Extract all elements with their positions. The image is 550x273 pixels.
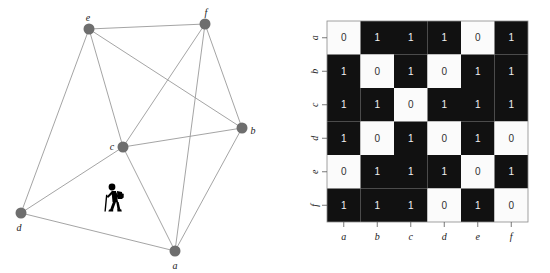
matrix-row-label-f: f: [309, 203, 320, 207]
matrix-cell-value-a-e: 0: [475, 32, 481, 43]
graph-edge-a-c: [123, 147, 175, 251]
adjacency-matrix-panel: 011101101011110111101010011101111010 abc…: [300, 0, 550, 273]
matrix-cell-value-c-d: 1: [441, 99, 447, 110]
hiker-icon-shape: [104, 184, 123, 212]
matrix-cell-value-b-e: 1: [475, 66, 481, 77]
matrix-col-label-a: a: [341, 231, 346, 242]
matrix-cell-value-c-b: 1: [374, 99, 380, 110]
matrix-row-label-a: a: [309, 35, 320, 40]
matrix-cell-value-a-d: 1: [441, 32, 447, 43]
matrix-cell-value-a-c: 1: [408, 32, 414, 43]
matrix-col-label-c: c: [409, 231, 414, 242]
matrix-cell-value-f-a: 1: [341, 200, 347, 211]
matrix-cell-value-c-c: 0: [408, 99, 414, 110]
matrix-cell-value-b-b: 0: [374, 66, 380, 77]
matrix-cell-value-a-f: 1: [508, 32, 514, 43]
matrix-cell-value-b-c: 1: [408, 66, 414, 77]
graph-node-e[interactable]: [84, 24, 95, 35]
matrix-row-label-b: b: [309, 69, 320, 74]
matrix-cell-value-c-e: 1: [475, 99, 481, 110]
matrix-cell-value-a-b: 1: [374, 32, 380, 43]
graph-edge-c-f: [123, 24, 205, 147]
graph-node-f[interactable]: [200, 19, 211, 30]
matrix-cell-value-a-a: 0: [341, 32, 347, 43]
graph-edge-b-c: [123, 128, 242, 147]
matrix-col-label-b: b: [375, 231, 380, 242]
matrix-row-label-group: abcdef: [309, 35, 328, 206]
matrix-cell-value-f-f: 0: [508, 200, 514, 211]
matrix-cell-value-b-d: 0: [441, 66, 447, 77]
graph-edge-a-b: [175, 128, 242, 251]
graph-edge-group: [21, 24, 242, 251]
graph-edge-b-f: [205, 24, 242, 128]
graph-edge-e-f: [89, 24, 205, 29]
graph-edge-d-e: [21, 29, 89, 213]
graph-node-label-e: e: [86, 12, 91, 23]
figure-root: abcdef 011101101011110111101010011101111…: [0, 0, 550, 273]
matrix-cell-value-d-a: 1: [341, 133, 347, 144]
graph-edge-c-e: [89, 29, 123, 147]
matrix-cell-value-e-c: 1: [408, 166, 414, 177]
matrix-cell-value-e-b: 1: [374, 166, 380, 177]
matrix-cell-value-b-f: 1: [508, 66, 514, 77]
graph-edge-a-d: [21, 213, 175, 251]
graph-edge-c-d: [21, 147, 123, 213]
graph-node-label-f: f: [205, 7, 209, 18]
matrix-cell-value-d-b: 0: [374, 133, 380, 144]
graph-node-label-c: c: [110, 141, 115, 152]
matrix-cell-value-d-e: 1: [475, 133, 481, 144]
graph-node-label-b: b: [251, 125, 256, 136]
matrix-cell-value-f-e: 1: [475, 200, 481, 211]
matrix-cell-value-d-c: 1: [408, 133, 414, 144]
matrix-cell-value-e-e: 0: [475, 166, 481, 177]
matrix-cell-group: 011101101011110111101010011101111010: [327, 21, 528, 222]
matrix-col-label-e: e: [476, 231, 481, 242]
matrix-row-label-e: e: [309, 169, 320, 174]
matrix-cell-value-f-c: 1: [408, 200, 414, 211]
matrix-cell-value-e-f: 1: [508, 166, 514, 177]
graph-node-d[interactable]: [16, 208, 27, 219]
matrix-cell-value-f-b: 1: [374, 200, 380, 211]
matrix-cell-value-d-f: 0: [508, 133, 514, 144]
graph-edge-b-e: [89, 29, 242, 128]
graph-node-c[interactable]: [118, 142, 129, 153]
graph-edge-a-f: [175, 24, 205, 251]
matrix-col-label-d: d: [442, 231, 448, 242]
graph-node-a[interactable]: [170, 246, 181, 257]
matrix-cell-value-c-f: 1: [508, 99, 514, 110]
graph-node-label-d: d: [17, 222, 23, 233]
matrix-col-label-f: f: [510, 231, 514, 242]
matrix-row-label-c: c: [309, 102, 320, 107]
graph-node-label-a: a: [173, 260, 178, 271]
matrix-cell-value-e-a: 0: [341, 166, 347, 177]
matrix-cell-value-f-d: 0: [441, 200, 447, 211]
matrix-cell-value-d-d: 0: [441, 133, 447, 144]
hiker-icon: [104, 184, 123, 212]
matrix-cell-value-c-a: 1: [341, 99, 347, 110]
graph-node-b[interactable]: [237, 123, 248, 134]
matrix-col-label-group: abcdef: [341, 222, 514, 242]
matrix-cell-value-b-a: 1: [341, 66, 347, 77]
matrix-cell-value-e-d: 1: [441, 166, 447, 177]
graph-panel: abcdef: [0, 0, 285, 273]
matrix-row-label-d: d: [309, 135, 320, 141]
graph-node-group: abcdef: [16, 7, 256, 271]
graph-canvas: abcdef: [0, 0, 285, 273]
matrix-canvas: 011101101011110111101010011101111010 abc…: [300, 0, 550, 273]
